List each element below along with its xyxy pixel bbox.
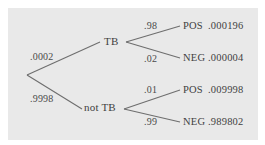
node-tb: TB <box>104 36 118 47</box>
joint-probability-not-tb-pos: .009998 <box>208 85 244 96</box>
joint-probability-tb-neg: .000004 <box>208 53 244 64</box>
joint-probability-tb-pos: .000196 <box>208 21 244 32</box>
leaf-outcome-not-tb-pos: POS <box>183 85 203 96</box>
branch-probability-not-tb-neg: .99 <box>144 117 157 127</box>
leaf-outcome-tb-neg: NEG <box>183 53 205 64</box>
joint-probability-not-tb-neg: .989802 <box>208 117 244 128</box>
branch-probability-tb-pos: .98 <box>144 21 157 31</box>
branch-probability-not-tb: .9998 <box>30 94 54 104</box>
leaf-outcome-tb-pos: POS <box>183 21 203 32</box>
branch-probability-not-tb-pos: .01 <box>144 85 157 95</box>
tree-diagram-page: .0002 .9998 TB not TB .98 .02 .01 .99 PO… <box>0 0 265 145</box>
branch-probability-tb-neg: .02 <box>144 54 157 64</box>
leaf-outcome-not-tb-neg: NEG <box>183 117 205 128</box>
branch-probability-tb: .0002 <box>30 52 54 62</box>
node-not-tb: not TB <box>84 102 116 113</box>
